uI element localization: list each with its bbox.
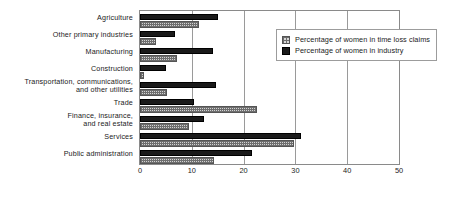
category-label: Manufacturing (0, 48, 133, 56)
category-label-line: Trade (0, 99, 133, 107)
bar-industry (140, 99, 194, 105)
bar-industry (140, 48, 213, 54)
category-label-line: Services (0, 133, 133, 141)
category-label-line: Public administration (0, 150, 133, 158)
category-label: Other primary industries (0, 31, 133, 39)
bar-time-loss-claims (140, 21, 199, 27)
bar-chart: AgricultureOther primary industriesManuf… (0, 0, 459, 200)
legend-item: Percentage of women in time loss claims (282, 34, 430, 45)
bar-group (140, 149, 399, 166)
bar-group (140, 98, 399, 115)
bar-industry (140, 14, 218, 20)
category-label-line: Agriculture (0, 14, 133, 22)
bar-time-loss-claims (140, 89, 167, 95)
x-tick-label: 40 (343, 166, 351, 175)
category-label-column: AgricultureOther primary industriesManuf… (0, 10, 136, 165)
category-label-line: Manufacturing (0, 48, 133, 56)
bar-industry (140, 65, 166, 71)
bar-group (140, 132, 399, 149)
bar-industry (140, 82, 216, 88)
legend-swatch-industry-icon (282, 47, 290, 55)
category-label: Agriculture (0, 14, 133, 22)
category-label: Trade (0, 99, 133, 107)
bar-time-loss-claims (140, 38, 156, 44)
legend-item: Percentage of women in industry (282, 45, 430, 56)
bar-group (140, 64, 399, 81)
bar-time-loss-claims (140, 106, 257, 112)
bar-time-loss-claims (140, 55, 177, 61)
x-axis-tick-labels: 01020304050 (139, 166, 400, 180)
bar-time-loss-claims (140, 140, 294, 146)
category-label-line: Other primary industries (0, 31, 133, 39)
category-label: Construction (0, 65, 133, 73)
x-tick-label: 50 (395, 166, 403, 175)
bar-time-loss-claims (140, 157, 214, 163)
category-label-line: and real estate (0, 120, 133, 128)
category-label: Public administration (0, 150, 133, 158)
bar-time-loss-claims (140, 72, 144, 78)
category-label: Services (0, 133, 133, 141)
chart-legend: Percentage of women in time loss claims … (276, 29, 437, 61)
x-tick-label: 20 (239, 166, 247, 175)
bar-industry (140, 31, 175, 37)
bar-industry (140, 133, 301, 139)
bar-group (140, 81, 399, 98)
category-label: Transportation, communications,and other… (0, 78, 133, 95)
x-tick-label: 0 (138, 166, 142, 175)
legend-label: Percentage of women in industry (295, 46, 404, 55)
category-label: Finance, insurance,and real estate (0, 112, 133, 129)
legend-swatch-time-loss-claims-icon (282, 36, 290, 44)
x-tick-label: 10 (188, 166, 196, 175)
bar-industry (140, 116, 204, 122)
bar-industry (140, 150, 252, 156)
category-label-line: Construction (0, 65, 133, 73)
bar-group (140, 115, 399, 132)
legend-label: Percentage of women in time loss claims (295, 35, 430, 44)
category-label-line: and other utilities (0, 86, 133, 94)
bar-group (140, 13, 399, 30)
x-tick-label: 30 (291, 166, 299, 175)
bar-time-loss-claims (140, 123, 189, 129)
